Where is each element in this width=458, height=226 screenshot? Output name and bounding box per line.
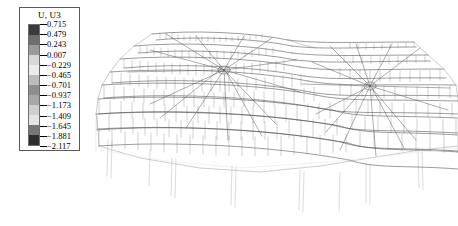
legend-swatch	[29, 85, 39, 95]
legend-label: −0.229	[47, 60, 71, 69]
legend-swatch	[29, 105, 39, 115]
legend-label: 0.007	[47, 50, 66, 59]
legend-swatch	[29, 35, 39, 45]
legend-swatch	[29, 25, 39, 35]
legend-label: −0.465	[47, 71, 71, 80]
legend-swatch	[29, 95, 39, 105]
legend-swatch	[29, 75, 39, 85]
legend-swatch	[29, 115, 39, 125]
legend-labels: 0.7150.4790.2430.007−0.229−0.465−0.701−0…	[47, 24, 81, 146]
legend-swatch	[29, 135, 39, 145]
legend-label: −0.937	[47, 91, 71, 100]
legend-color-swatches	[28, 24, 40, 146]
legend-label: 0.243	[47, 40, 66, 49]
legend-tick	[40, 75, 47, 76]
legend-label: −1.645	[47, 121, 71, 130]
legend-swatch	[29, 65, 39, 75]
legend-label: −1.881	[47, 132, 71, 141]
legend-tick	[40, 146, 47, 147]
legend-label: −1.409	[47, 111, 71, 120]
legend-swatch	[29, 45, 39, 55]
legend-tick	[40, 105, 47, 106]
legend-tick	[40, 85, 47, 86]
legend-tick	[40, 126, 47, 127]
legend-tick	[40, 116, 47, 117]
legend-tick	[40, 65, 47, 66]
legend-label: 0.479	[47, 30, 66, 39]
legend-label: 0.715	[47, 20, 66, 29]
legend-tick	[40, 95, 47, 96]
plot-viewport: U, U3 0.7150.4790.2430.007−0.229−0.465−0…	[0, 0, 458, 226]
legend-tick	[40, 34, 47, 35]
contour-legend: U, U3 0.7150.4790.2430.007−0.229−0.465−0…	[19, 7, 80, 151]
legend-label: −2.117	[47, 142, 71, 151]
legend-swatch	[29, 55, 39, 65]
mesh-hatching	[97, 33, 458, 156]
legend-swatch	[29, 125, 39, 135]
legend-tick	[40, 24, 47, 25]
mesh-ribs	[96, 32, 458, 169]
legend-label: −0.701	[47, 81, 71, 90]
legend-label: −1.173	[47, 101, 71, 110]
legend-body: 0.7150.4790.2430.007−0.229−0.465−0.701−0…	[20, 22, 79, 149]
legend-tick	[40, 55, 47, 56]
legend-tick	[40, 44, 47, 45]
legend-tick	[40, 136, 47, 137]
